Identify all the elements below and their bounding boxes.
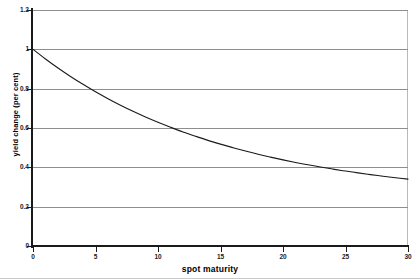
- y-tick-label: 0.2: [20, 204, 29, 211]
- y-tick-label: 1.2: [20, 7, 29, 14]
- x-tick-label: 5: [86, 254, 106, 261]
- yield-change-chart: 00.20.40.60.811.2 051015202530 yield cha…: [0, 0, 420, 279]
- x-tick-label: 30: [398, 254, 418, 261]
- x-axis-title: spot maturity: [0, 264, 420, 274]
- x-tick-mark: [408, 247, 409, 252]
- x-tick-mark: [283, 247, 284, 252]
- y-tick-label: 0.8: [20, 86, 29, 93]
- y-tick-label: 1: [25, 46, 29, 53]
- y-tick-label: 0.4: [20, 164, 29, 171]
- x-tick-mark: [33, 247, 34, 252]
- series-curve-yield-change: [33, 10, 408, 246]
- x-tick-label: 20: [273, 254, 293, 261]
- x-tick-label: 0: [23, 254, 43, 261]
- x-tick-mark: [221, 247, 222, 252]
- y-tick-label: 0.6: [20, 125, 29, 132]
- x-tick-mark: [158, 247, 159, 252]
- x-tick-mark: [346, 247, 347, 252]
- x-tick-label: 15: [211, 254, 231, 261]
- y-tick-label: 0: [25, 243, 29, 250]
- curve-path: [33, 49, 408, 179]
- x-tick-label: 10: [148, 254, 168, 261]
- x-tick-mark: [96, 247, 97, 252]
- x-tick-label: 25: [336, 254, 356, 261]
- y-axis-title: yield change (per cent): [11, 50, 20, 180]
